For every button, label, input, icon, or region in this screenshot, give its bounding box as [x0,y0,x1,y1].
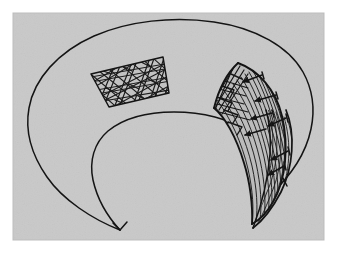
figure-root: Annular surface with two textured patche… [0,0,337,253]
figure-canvas [0,0,337,253]
